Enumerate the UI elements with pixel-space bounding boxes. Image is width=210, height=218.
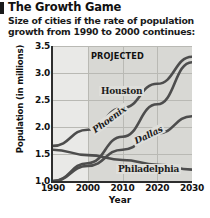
plot-inner: PROJECTED Houston Phoenix Dallas Philade… [53,46,192,181]
y-tick-label: 3.5 [35,41,53,51]
projected-annotation: PROJECTED [91,51,144,61]
x-axis-label: Year [50,195,190,205]
series-label-houston: Houston [99,86,144,96]
x-tick-label: 2030 [180,183,204,193]
y-tick-label: 1.5 [35,149,53,159]
page-subtitle: Size of cities if the rate of population… [8,16,208,37]
x-tick-label: 1990 [41,183,65,193]
y-tick-label: 3.0 [35,68,53,78]
x-tick-label: 2010 [111,183,135,193]
x-tick-label: 2000 [76,183,100,193]
y-tick-label: 2.5 [35,95,53,105]
y-tick-label: 2.0 [35,122,53,132]
series-label-philadelphia: Philadelphia [116,164,181,174]
y-axis-label: Population (in millions) [15,37,25,161]
title-accent-bar [0,2,4,14]
page-title: The Growth Game [8,1,121,14]
chart-container: Population (in millions) Year PROJECTED … [0,40,210,218]
series-line-houston [53,57,192,146]
plot-area: PROJECTED Houston Phoenix Dallas Philade… [51,46,192,183]
chart-infographic: The Growth Game Size of cities if the ra… [0,0,210,218]
title-row: The Growth Game [0,1,121,14]
x-tick-label: 2020 [145,183,169,193]
